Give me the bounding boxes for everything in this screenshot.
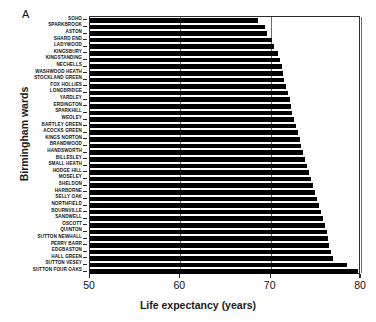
category-label: FOX HOLLIES <box>50 83 82 88</box>
category-label: HODGE HILL <box>53 169 82 174</box>
bar <box>90 144 301 149</box>
bar-row <box>90 190 361 195</box>
category-tick <box>83 132 87 133</box>
bar-row <box>90 210 361 215</box>
bar <box>90 210 321 215</box>
bar-row <box>90 44 361 49</box>
category-tick <box>83 178 87 179</box>
bar-row <box>90 58 361 63</box>
bar-row <box>90 256 361 261</box>
category-tick <box>83 66 87 67</box>
category-tick <box>83 85 87 86</box>
category-label: SOHO <box>68 17 82 22</box>
category-label: WASHWOOD HEATH <box>35 70 82 75</box>
category-tick <box>83 59 87 60</box>
bar <box>90 150 303 155</box>
category-label: ERDINGTON <box>54 103 82 108</box>
category-label: SHELDON <box>59 182 82 187</box>
category-label: KINGSTANDING <box>46 56 82 61</box>
category-tick <box>83 46 87 47</box>
category-label: STOCKLAND GREEN <box>34 76 82 81</box>
category-label: ACOCKS GREEN <box>43 129 82 134</box>
category-tick <box>83 165 87 166</box>
bar-row <box>90 183 361 188</box>
category-tick <box>83 257 87 258</box>
category-tick <box>83 205 87 206</box>
x-tick-label: 60 <box>173 279 185 291</box>
category-label: YARDLEY <box>60 96 82 101</box>
bar-row <box>90 25 361 30</box>
category-tick <box>83 138 87 139</box>
bar-row <box>90 236 361 241</box>
bar <box>90 137 300 142</box>
bar <box>90 111 292 116</box>
bar-row <box>90 250 361 255</box>
bar <box>90 183 313 188</box>
bar <box>90 58 280 63</box>
category-tick <box>83 211 87 212</box>
category-label: SHARD END <box>54 37 82 42</box>
bar-row <box>90 157 361 162</box>
bar-row <box>90 150 361 155</box>
category-tick <box>83 171 87 172</box>
category-axis-labels: SOHOSPARKBROOKASTONSHARD ENDLADYWOODKING… <box>0 16 87 274</box>
x-tick-mark-edge <box>359 274 360 278</box>
category-label: NORTHFIELD <box>51 202 82 207</box>
category-tick <box>83 198 87 199</box>
bar-row <box>90 84 361 89</box>
category-tick <box>83 39 87 40</box>
category-label: SUTTON VESEY <box>45 261 82 266</box>
category-label: SUTTON NEWHALL <box>38 235 82 240</box>
bar <box>90 164 307 169</box>
category-tick <box>83 119 87 120</box>
bar <box>90 38 272 43</box>
bar <box>90 256 333 261</box>
bar <box>90 130 298 135</box>
bar <box>90 124 296 129</box>
category-tick <box>83 112 87 113</box>
category-label: OSCOTT <box>62 222 82 227</box>
bar-row <box>90 197 361 202</box>
category-tick <box>83 271 87 272</box>
category-tick <box>83 152 87 153</box>
category-tick <box>83 145 87 146</box>
x-tick-label: 70 <box>264 279 276 291</box>
bar <box>90 250 331 255</box>
bar-series <box>90 17 359 273</box>
bar-row <box>90 203 361 208</box>
x-axis-title: Life expectancy (years) <box>89 299 307 311</box>
category-tick <box>83 105 87 106</box>
bar <box>90 18 258 23</box>
x-tick-mark <box>360 274 361 278</box>
category-tick <box>83 244 87 245</box>
category-label: BARTLEY GREEN <box>41 123 82 128</box>
bar <box>90 44 274 49</box>
bar-row <box>90 216 361 221</box>
bar <box>90 197 317 202</box>
bar-row <box>90 144 361 149</box>
category-tick <box>83 19 87 20</box>
category-label: BRANDWOOD <box>50 142 82 147</box>
category-tick <box>83 231 87 232</box>
bar-row <box>90 170 361 175</box>
bar-row <box>90 38 361 43</box>
category-tick <box>83 99 87 100</box>
bar <box>90 51 278 56</box>
category-tick <box>83 238 87 239</box>
category-tick <box>83 26 87 27</box>
bar <box>90 216 323 221</box>
category-label: SPARKBROOK <box>48 23 82 28</box>
bar <box>90 230 327 235</box>
bar <box>90 71 283 76</box>
bar-row <box>90 223 361 228</box>
category-label: KINGS NORTON <box>45 136 82 141</box>
bar <box>90 64 282 69</box>
bar <box>90 31 267 36</box>
category-tick <box>83 52 87 53</box>
bar-row <box>90 91 361 96</box>
bar <box>90 236 328 241</box>
bar <box>90 190 315 195</box>
category-tick <box>83 33 87 34</box>
bar <box>90 263 347 268</box>
bar-row <box>90 130 361 135</box>
